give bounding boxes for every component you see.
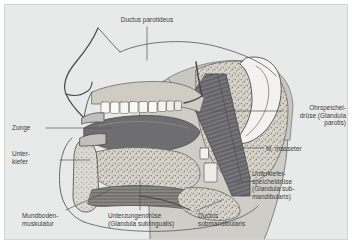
upper-lip bbox=[82, 113, 104, 124]
nose bbox=[64, 28, 98, 118]
face-front-contour bbox=[98, 28, 120, 52]
label-m-masseter: M. masseter bbox=[266, 145, 350, 153]
label-unterzungendruese-glandula-sublingualis: Unterzungendrüse (Glandula sublingualis) bbox=[108, 212, 212, 227]
anatomy-figure: Ductus parotideus Ohrspeichel- drüse (Gl… bbox=[0, 0, 352, 249]
label-unterkieferspeicheldruese-glandula-submandibularis: Unterkiefer- speicheldrüse (Glandula sub… bbox=[252, 170, 350, 200]
label-ohrspeicheldruese-glandula-parotis: Ohrspeichel- drüse (Glandula parotis) bbox=[248, 104, 346, 127]
submandibular-duct-orifice bbox=[204, 163, 217, 182]
label-mundbodenmuskulatur: Mundboden- muskulatur bbox=[22, 212, 98, 227]
label-ductus-submandibularis: Ductus submandibularis bbox=[198, 212, 294, 227]
nose-tip-ala bbox=[66, 82, 92, 95]
label-ductus-parotideus: Ductus parotideus bbox=[93, 16, 201, 24]
parotid-duct-orifice bbox=[200, 148, 209, 159]
label-unterkiefer: Unter- kiefer bbox=[12, 150, 56, 165]
label-zunge: Zunge bbox=[12, 124, 62, 132]
